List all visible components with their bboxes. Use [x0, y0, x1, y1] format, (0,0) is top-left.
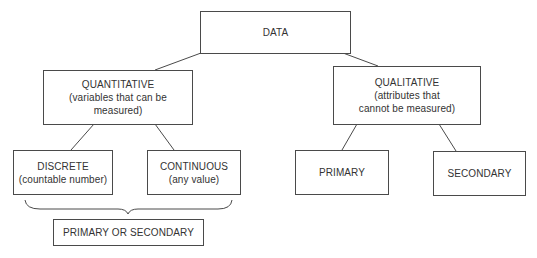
edge-qualitative-secondary: [439, 124, 456, 151]
node-qualitative-secondary: SECONDARY: [433, 151, 526, 196]
node-discrete-title: DISCRETE: [37, 160, 88, 173]
node-data: DATA: [200, 11, 351, 54]
edge-qualitative-primary: [342, 124, 357, 150]
node-discrete: DISCRETE (countable number): [13, 150, 113, 195]
node-quantitative: QUANTITATIVE (variables that can be meas…: [43, 70, 193, 125]
node-continuous: CONTINUOUS (any value): [147, 150, 241, 195]
node-primary-or-secondary-title: PRIMARY OR SECONDARY: [63, 226, 194, 239]
edge-data-qualitative: [343, 53, 378, 66]
node-qualitative-primary-title: PRIMARY: [319, 166, 365, 179]
node-qualitative-title: QUALITATIVE: [375, 76, 440, 89]
edge-data-quantitative: [155, 53, 201, 70]
node-continuous-title: CONTINUOUS: [160, 160, 228, 173]
node-qualitative-desc-1: (attributes that: [374, 89, 440, 102]
node-qualitative-desc-2: cannot be measured): [359, 102, 455, 115]
node-qualitative: QUALITATIVE (attributes that cannot be m…: [333, 66, 481, 125]
node-qualitative-primary: PRIMARY: [295, 150, 389, 195]
node-qualitative-secondary-title: SECONDARY: [447, 167, 511, 180]
node-primary-or-secondary: PRIMARY OR SECONDARY: [53, 219, 204, 246]
node-discrete-desc: (countable number): [19, 173, 108, 186]
node-quantitative-title: QUANTITATIVE: [82, 78, 155, 91]
brace-icon: [25, 200, 232, 214]
node-quantitative-desc-1: (variables that can be: [69, 91, 167, 104]
node-continuous-desc: (any value): [169, 173, 220, 186]
edge-quantitative-continuous: [155, 124, 174, 150]
node-data-title: DATA: [263, 26, 289, 39]
node-quantitative-desc-2: measured): [94, 104, 143, 117]
edge-quantitative-discrete: [71, 124, 94, 150]
